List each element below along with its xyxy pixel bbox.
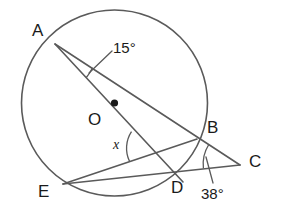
angle-label-38-degrees: 38° bbox=[201, 186, 224, 201]
point-label-d: D bbox=[171, 179, 183, 196]
angle-arc-x bbox=[127, 132, 132, 162]
segment-a-through-o-to-d bbox=[55, 44, 183, 182]
center-label-o: O bbox=[88, 111, 101, 128]
point-label-e: E bbox=[38, 183, 49, 200]
point-label-b: B bbox=[207, 119, 218, 136]
leader-line-15-degrees bbox=[89, 51, 112, 73]
point-label-a: A bbox=[32, 22, 43, 39]
geometry-figure: A B C D E O 15° 38° x bbox=[0, 0, 281, 211]
angle-label-x: x bbox=[113, 138, 119, 152]
point-label-c: C bbox=[249, 153, 261, 170]
center-point-dot bbox=[111, 99, 118, 106]
leader-line-38-degrees bbox=[206, 157, 213, 183]
angle-label-15-degrees: 15° bbox=[113, 40, 136, 55]
